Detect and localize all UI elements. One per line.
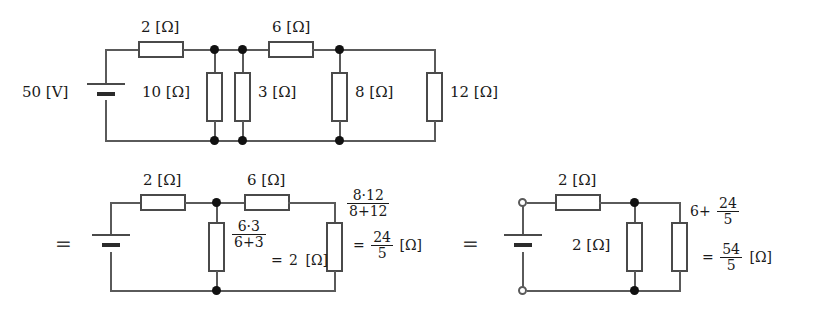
resistor-12-ohm <box>426 72 443 122</box>
series-total-equals: = <box>702 250 714 265</box>
s1-wire-top-right <box>288 202 336 204</box>
s1-resistor-parallel-8-12 <box>326 222 343 272</box>
source-voltage-label: 50 [V] <box>22 85 68 100</box>
s1-battery-plate-negative <box>102 243 120 247</box>
resistor-3-ohm <box>234 72 251 122</box>
s2-node-top <box>630 198 639 207</box>
fraction-24-5-denominator: 5 <box>371 245 393 261</box>
battery-plate-positive <box>87 83 125 85</box>
annotation-series-total: 6+ 24 5 = 54 5 [Ω] <box>690 196 810 273</box>
fraction-24-5: 24 5 <box>371 230 393 260</box>
s2-wire-top-left <box>527 202 557 204</box>
s2-resistor-2-ohm-shunt-label: 2 [Ω] <box>572 238 610 253</box>
annotation-parallel-8-12: 8·12 8+12 = 24 5 [Ω] <box>347 188 457 261</box>
resistor-8-ohm <box>331 72 348 122</box>
s2-resistor-2-ohm-series-label: 2 [Ω] <box>558 173 596 188</box>
s2-battery-plate-positive <box>504 234 542 236</box>
s2-wire-right-bottom <box>679 271 681 291</box>
series-total-unit: [Ω] <box>749 250 772 265</box>
parallel-6-3-value: 2 <box>289 253 298 268</box>
s2-wire-bottom-rail <box>527 290 681 292</box>
wire-left-lower <box>105 100 107 141</box>
s1-node-bottom <box>212 286 221 295</box>
fraction-24-5-step2-denominator: 5 <box>717 211 739 227</box>
node-b-top <box>238 45 247 54</box>
node-c-top <box>335 45 344 54</box>
fraction-8-12: 8·12 8+12 <box>347 188 389 218</box>
resistor-3-ohm-label: 3 [Ω] <box>258 85 296 100</box>
s1-wire-top-left <box>110 202 142 204</box>
node-c-bottom <box>335 136 344 145</box>
resistor-2-ohm <box>138 41 184 58</box>
fraction-6-3: 6·3 6+3 <box>232 219 266 249</box>
equals-sign-2: = <box>462 234 479 254</box>
equals-sign-1: = <box>55 234 72 254</box>
fraction-8-12-denominator: 8+12 <box>347 203 389 219</box>
battery-plate-negative <box>97 92 115 96</box>
s2-resistor-2-ohm-series <box>555 194 601 211</box>
wire-branch-d-top <box>434 49 436 73</box>
fraction-54-5: 54 5 <box>720 242 742 272</box>
wire-left-upper <box>105 49 107 84</box>
s2-wire-top-right <box>634 202 681 204</box>
s1-resistor-6-ohm-label: 6 [Ω] <box>247 173 285 188</box>
s1-resistor-2-ohm-label: 2 [Ω] <box>143 173 181 188</box>
parallel-6-3-equals: = <box>271 253 283 268</box>
s2-wire-left-upper <box>522 206 524 235</box>
s2-wire-right-top <box>679 202 681 224</box>
s1-battery-symbol <box>92 234 130 250</box>
s2-node-bottom <box>630 286 639 295</box>
s2-battery-symbol <box>504 234 542 250</box>
parallel-8-12-equals: = <box>353 238 365 253</box>
resistor-10-ohm <box>206 72 223 122</box>
annotation-parallel-6-3: 6·3 6+3 = 2 [Ω] <box>232 219 328 268</box>
fraction-24-5-numerator: 24 <box>371 230 393 245</box>
s1-wire-left-upper <box>110 202 112 235</box>
wire-bottom-rail <box>105 140 436 142</box>
fraction-24-5-step2: 24 5 <box>717 196 739 226</box>
resistor-6-ohm <box>268 41 314 58</box>
s1-wire-right-bottom <box>334 271 336 291</box>
fraction-54-5-denominator: 5 <box>720 257 742 273</box>
fraction-6-3-denominator: 6+3 <box>232 234 266 250</box>
battery-symbol <box>87 83 125 99</box>
s1-wire-left-lower <box>110 252 112 291</box>
circuit-diagram: 2 [Ω] 6 [Ω] 50 [V] 10 [Ω] <box>0 0 818 316</box>
s1-resistor-6-ohm <box>244 194 290 211</box>
resistor-2-ohm-label: 2 [Ω] <box>141 20 179 35</box>
fraction-8-12-numerator: 8·12 <box>347 188 389 203</box>
s1-resistor-parallel-6-3 <box>208 222 225 272</box>
node-a-top <box>210 45 219 54</box>
resistor-8-ohm-label: 8 [Ω] <box>355 85 393 100</box>
s1-resistor-2-ohm <box>140 194 186 211</box>
resistor-6-ohm-label: 6 [Ω] <box>272 20 310 35</box>
resistor-10-ohm-label: 10 [Ω] <box>142 85 190 100</box>
resistor-12-ohm-label: 12 [Ω] <box>450 85 498 100</box>
s2-battery-plate-negative <box>514 243 532 247</box>
s1-node-top <box>212 198 221 207</box>
s1-wire-bottom-rail <box>110 290 336 292</box>
fraction-24-5-step2-numerator: 24 <box>717 196 739 211</box>
series-total-lead: 6+ <box>690 204 711 219</box>
s2-resistor-2-ohm-shunt <box>626 222 643 272</box>
node-a-bottom <box>210 136 219 145</box>
s2-resistor-series-total <box>671 222 688 272</box>
parallel-8-12-unit: [Ω] <box>399 238 422 253</box>
node-b-bottom <box>238 136 247 145</box>
s1-wire-right-top <box>334 202 336 224</box>
parallel-6-3-unit: [Ω] <box>305 253 328 268</box>
wire-top-left <box>105 49 140 51</box>
fraction-6-3-numerator: 6·3 <box>232 219 266 234</box>
s2-wire-left-lower <box>522 252 524 288</box>
fraction-54-5-numerator: 54 <box>720 242 742 257</box>
wire-branch-d-bottom <box>434 121 436 141</box>
wire-top-right <box>339 49 436 51</box>
s1-battery-plate-positive <box>92 234 130 236</box>
